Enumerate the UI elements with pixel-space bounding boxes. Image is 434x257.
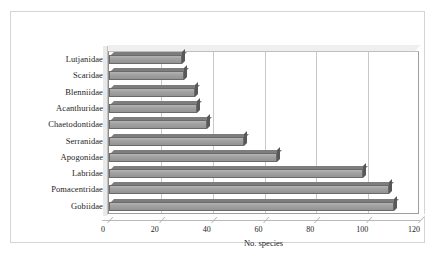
bar-labridae (109, 169, 363, 178)
x-tick-label-120: 120 (399, 225, 429, 234)
bar-row (109, 182, 420, 198)
y-axis-label-gobiidae: Gobiidae (11, 201, 103, 211)
y-axis-label-apogonidae: Apogonidae (11, 152, 103, 162)
x-axis-title: No. species (108, 238, 419, 248)
x-tick-label-80: 80 (295, 225, 325, 234)
bar-blenniidae (109, 88, 195, 97)
y-axis-label-labridae: Labridae (11, 168, 103, 178)
bar-row (109, 52, 420, 68)
plot-area (108, 51, 419, 214)
y-axis-label-chaetodontidae: Chaetodontidae (11, 119, 103, 129)
bar-end-face (195, 82, 198, 97)
bar-row (109, 166, 420, 182)
bar-end-face (394, 196, 397, 211)
bar-row (109, 150, 420, 166)
x-tick-label-40: 40 (192, 225, 222, 234)
chart-frame: LutjanidaeScaridaeBlenniidaeAcanthuridae… (10, 11, 425, 243)
y-axis-label-serranidae: Serranidae (11, 136, 103, 146)
bar-row (109, 134, 420, 150)
bar-row (109, 199, 420, 215)
bar-end-face (197, 98, 200, 113)
x-tick-label-0: 0 (88, 225, 118, 234)
y-axis-label-pomacentridae: Pomacentridae (11, 184, 103, 194)
bar-end-face (184, 65, 187, 80)
bar-pomacentridae (109, 185, 389, 194)
bar-acanthuridae (109, 104, 197, 113)
y-axis-label-scaridae: Scaridae (11, 70, 103, 80)
bar-lutjanidae (109, 55, 182, 64)
bar-scaridae (109, 71, 184, 80)
bar-row (109, 68, 420, 84)
x-tick-label-20: 20 (140, 225, 170, 234)
plot-3d-floor (102, 214, 426, 221)
bar-end-face (244, 131, 247, 146)
bar-gobiidae (109, 202, 394, 211)
bar-end-face (389, 179, 392, 194)
bar-row (109, 117, 420, 133)
bar-end-face (363, 163, 366, 178)
bar-end-face (182, 49, 185, 64)
x-tick-label-100: 100 (347, 225, 377, 234)
bar-row (109, 85, 420, 101)
y-axis-label-acanthuridae: Acanthuridae (11, 103, 103, 113)
bar-chaetodontidae (109, 120, 207, 129)
bar-serranidae (109, 137, 244, 146)
y-axis-label-lutjanidae: Lutjanidae (11, 54, 103, 64)
bar-apogonidae (109, 153, 277, 162)
y-axis-label-blenniidae: Blenniidae (11, 87, 103, 97)
figure-container: LutjanidaeScaridaeBlenniidaeAcanthuridae… (0, 0, 434, 257)
bar-row (109, 101, 420, 117)
x-tick-label-60: 60 (244, 225, 274, 234)
